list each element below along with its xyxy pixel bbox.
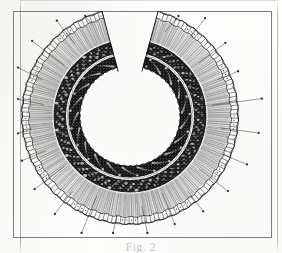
page-rule-top — [20, 0, 278, 1]
horseshoe-cross-section-illustration — [13, 11, 272, 238]
scanned-page: Fig. 2 — [0, 0, 282, 253]
page-rule-right — [277, 0, 278, 253]
figure-stage — [13, 11, 272, 238]
figure-caption: Fig. 2 — [0, 241, 282, 253]
